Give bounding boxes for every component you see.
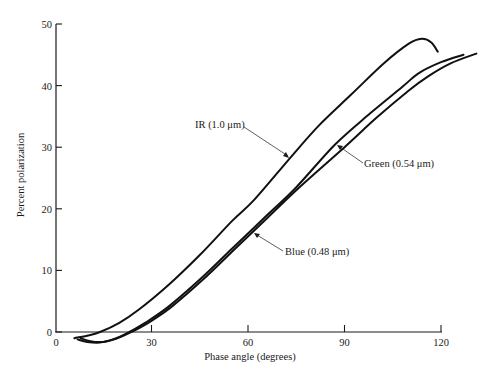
series-line-blue (81, 54, 477, 342)
y-tick-label: 30 (42, 142, 53, 153)
annotation-blue: Blue (0.48 μm) (254, 233, 350, 258)
x-tick-label: 90 (339, 337, 350, 348)
annotation-blue-label: Blue (0.48 μm) (285, 246, 350, 258)
annotation-green: Green (0.54 μm) (337, 145, 435, 170)
series-line-ir (74, 39, 438, 338)
y-tick-label: 20 (42, 204, 53, 215)
x-tick-label: 120 (433, 337, 449, 348)
annotation-ir-label: IR (1.0 μm) (195, 119, 245, 131)
x-tick-label: 60 (243, 337, 254, 348)
polarization-chart: 01020304050 0306090120 Percent polarizat… (0, 0, 487, 377)
x-axis: 0306090120 (53, 325, 449, 348)
series-lines (74, 39, 476, 343)
x-tick-label: 0 (53, 337, 58, 348)
y-tick-label: 50 (42, 19, 53, 30)
series-line-green (78, 55, 464, 343)
x-axis-label: Phase angle (degrees) (204, 351, 296, 363)
y-axis-label: Percent polarization (15, 132, 26, 217)
y-tick-label: 10 (42, 265, 53, 276)
y-axis: 01020304050 (42, 19, 63, 338)
x-tick-label: 30 (146, 337, 157, 348)
annotation-ir: IR (1.0 μm) (195, 119, 289, 158)
y-tick-label: 40 (42, 81, 53, 92)
y-tick-label: 0 (47, 327, 52, 338)
annotation-green-label: Green (0.54 μm) (364, 158, 435, 170)
